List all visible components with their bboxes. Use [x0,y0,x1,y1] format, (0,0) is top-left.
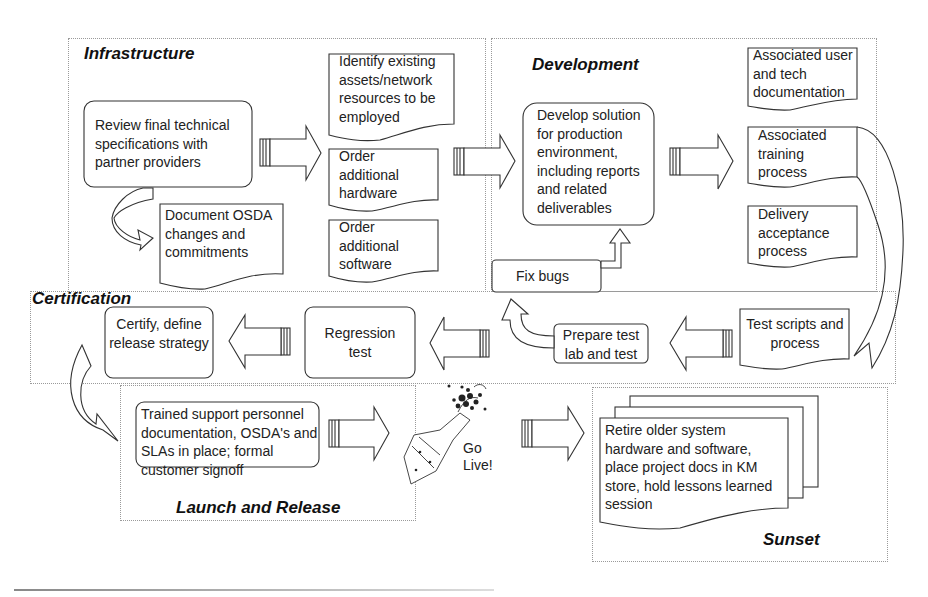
delivery-acceptance-text: Delivery acceptance process [758,205,853,261]
document-osda-text: Document OSDA changes and commitments [165,206,281,262]
page-divider [14,589,494,591]
regression-text: Regression test [318,324,402,361]
go-live-text: Go Live! [463,440,493,474]
phase-title-sunset: Sunset [763,530,820,550]
curved-up-arrow-icon [502,299,554,348]
block-arrow-left-icon [670,317,732,370]
block-arrow-icon [329,407,389,460]
block-arrow-icon [670,135,733,189]
trained-support-text: Trained support personnel documentation,… [141,405,321,479]
phase-title-development: Development [532,55,639,75]
up-arrow-icon [601,229,630,268]
block-arrow-left-icon [229,315,290,368]
curved-arrow-icon [112,188,153,250]
identify-assets-text: Identify existing assets/network resourc… [339,52,457,126]
retire-text: Retire older system hardware and softwar… [605,421,787,514]
block-arrow-icon [454,135,515,188]
prepare-test-text: Prepare test lab and test [556,326,646,363]
review-text: Review final technical specifications wi… [95,116,250,172]
order-software-text: Order additional software [339,218,424,274]
training-text: Associated training process [758,126,853,182]
phase-title-launch: Launch and Release [176,498,340,518]
phase-title-infrastructure: Infrastructure [84,44,195,64]
fix-bugs-text: Fix bugs [516,267,569,286]
block-arrow-left-icon [430,317,489,370]
large-curved-arrow-icon [854,127,903,368]
test-scripts-text: Test scripts and process [744,315,846,352]
block-arrow-icon [260,126,321,180]
user-tech-docs-text: Associated user and tech documentation [753,46,863,102]
block-arrow-icon [522,407,584,460]
process-diagram: Infrastructure Development Certification… [0,0,928,597]
certify-text: Certify, define release strategy [108,315,210,352]
order-hardware-text: Order additional hardware [339,147,424,203]
phase-title-certification: Certification [32,289,131,309]
develop-solution-text: Develop solution for production environm… [537,106,657,218]
